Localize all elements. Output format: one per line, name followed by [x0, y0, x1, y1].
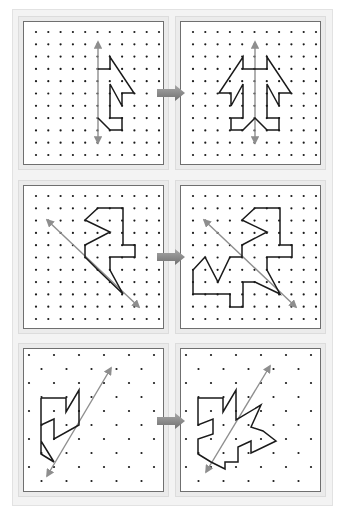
- grid-dot: [96, 256, 98, 258]
- grid-dot: [204, 117, 206, 119]
- grid-dot: [297, 396, 299, 398]
- grid-dot: [121, 68, 123, 70]
- grid-dot: [65, 452, 67, 454]
- grid-dot: [60, 269, 62, 271]
- grid-dot: [229, 220, 231, 222]
- grid-dot: [315, 117, 317, 119]
- grid-dot: [146, 318, 148, 320]
- grid-dot: [158, 129, 160, 131]
- grid-dot: [72, 154, 74, 156]
- grid-dot: [192, 56, 194, 58]
- grid-dot: [204, 68, 206, 70]
- grid-dot: [217, 306, 219, 308]
- grid-dot: [192, 306, 194, 308]
- grid-dot: [315, 154, 317, 156]
- grid-dot: [204, 142, 206, 144]
- grid-dot: [72, 56, 74, 58]
- grid-dot: [272, 480, 274, 482]
- grid-dot: [204, 31, 206, 33]
- grid-dot: [217, 269, 219, 271]
- grid-dot: [72, 207, 74, 209]
- grid-dot: [290, 207, 292, 209]
- grid-dot: [266, 306, 268, 308]
- grid-dot: [241, 43, 243, 45]
- grid-dot: [278, 56, 280, 58]
- grid-dot: [204, 56, 206, 58]
- grid-dot: [72, 105, 74, 107]
- grid-dot: [192, 154, 194, 156]
- grid-dot: [315, 318, 317, 320]
- grid-dot: [278, 306, 280, 308]
- grid-dot: [60, 154, 62, 156]
- grid-dot: [146, 207, 148, 209]
- grid-dot: [260, 438, 262, 440]
- grid-dot: [28, 466, 30, 468]
- grid-dot: [35, 207, 37, 209]
- grid-dot: [217, 256, 219, 258]
- grid-dot: [128, 410, 130, 412]
- grid-dot: [146, 80, 148, 82]
- grid-dot: [158, 56, 160, 58]
- panel-content-0-reflected: [192, 31, 317, 156]
- grid-dot: [53, 354, 55, 356]
- grid-dot: [47, 281, 49, 283]
- grid-dot: [103, 466, 105, 468]
- grid-dot: [158, 142, 160, 144]
- grid-dot: [84, 43, 86, 45]
- grid-dot: [35, 129, 37, 131]
- grid-dot: [303, 68, 305, 70]
- grid-dot: [204, 105, 206, 107]
- grid-dot: [35, 68, 37, 70]
- grid-dot: [315, 56, 317, 58]
- grid-dot: [272, 424, 274, 426]
- grid-dot: [303, 195, 305, 197]
- grid-dot: [158, 207, 160, 209]
- grid-dot: [290, 43, 292, 45]
- grid-dot: [72, 232, 74, 234]
- grid-dot: [146, 31, 148, 33]
- grid-dot: [78, 438, 80, 440]
- grid-dot: [28, 438, 30, 440]
- grid-dot: [210, 410, 212, 412]
- grid-dot: [133, 207, 135, 209]
- grid-dot: [84, 306, 86, 308]
- grid-dot: [285, 466, 287, 468]
- grid-dot: [290, 293, 292, 295]
- grid-dot: [47, 92, 49, 94]
- grid-dot: [290, 281, 292, 283]
- grid-dot: [278, 43, 280, 45]
- grid-dot: [47, 293, 49, 295]
- grid-dot: [35, 142, 37, 144]
- grid-dot: [285, 382, 287, 384]
- original-shape: [41, 390, 79, 462]
- grid-dot: [290, 195, 292, 197]
- grid-dot: [247, 424, 249, 426]
- grid-dot: [310, 410, 312, 412]
- grid-dot: [146, 306, 148, 308]
- grid-dot: [235, 438, 237, 440]
- grid-dot: [133, 129, 135, 131]
- grid-dot: [197, 368, 199, 370]
- grid-dot: [72, 256, 74, 258]
- grid-dot: [315, 232, 317, 234]
- grid-dot: [133, 142, 135, 144]
- grid-dot: [192, 232, 194, 234]
- grid-dot: [204, 92, 206, 94]
- grid-dot: [96, 244, 98, 246]
- grid-dot: [28, 354, 30, 356]
- grid-dot: [140, 424, 142, 426]
- grid-dot: [109, 43, 111, 45]
- grid-dot: [266, 43, 268, 45]
- grid-dot: [260, 466, 262, 468]
- grid-dot: [35, 220, 37, 222]
- grid-dot: [315, 129, 317, 131]
- grid-dot: [35, 56, 37, 58]
- grid-dot: [266, 154, 268, 156]
- grid-dot: [229, 318, 231, 320]
- grid-dot: [72, 129, 74, 131]
- grid-dot: [146, 56, 148, 58]
- grid-dot: [146, 117, 148, 119]
- grid-dot: [315, 207, 317, 209]
- grid-dot: [303, 269, 305, 271]
- grid-dot: [47, 43, 49, 45]
